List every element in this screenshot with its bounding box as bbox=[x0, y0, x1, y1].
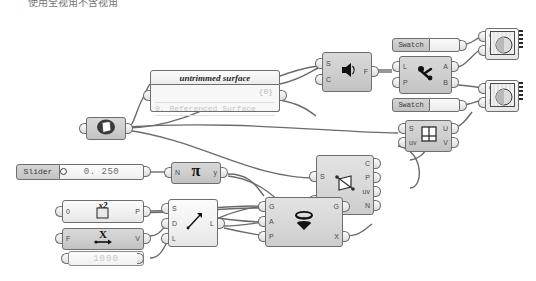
sl-out-C[interactable] bbox=[374, 158, 381, 169]
pi-label-N: N bbox=[175, 169, 180, 177]
svg-text:X: X bbox=[99, 228, 107, 240]
sl-out-P[interactable] bbox=[374, 172, 381, 183]
panel-input-port[interactable] bbox=[143, 90, 150, 101]
ex-in-F[interactable] bbox=[55, 233, 62, 244]
sl-out-N[interactable] bbox=[374, 200, 381, 211]
panel-body: {0} 0. Referenced Surface bbox=[150, 85, 280, 112]
top-note-text: 使用全视角不含视角 bbox=[28, 0, 118, 9]
node-rotate[interactable]: G A P G X bbox=[265, 197, 343, 247]
swatch-bottom-output[interactable] bbox=[460, 100, 467, 111]
sq-in-0[interactable] bbox=[55, 206, 62, 217]
number-input-port[interactable] bbox=[61, 253, 68, 264]
node-dispatch[interactable]: L P A B bbox=[399, 56, 452, 94]
evaluate-out-U[interactable] bbox=[452, 123, 459, 134]
swatch-bottom[interactable]: Swatch bbox=[392, 98, 460, 112]
node-line-sdl[interactable]: S D L L bbox=[168, 199, 218, 247]
evaluate-out-V[interactable] bbox=[452, 137, 459, 148]
evaluate-label-V: V bbox=[443, 139, 448, 147]
swatch-bottom-chip[interactable] bbox=[430, 98, 460, 112]
preview-bottom-in-G[interactable] bbox=[478, 83, 485, 94]
swatch-top-chip[interactable] bbox=[430, 38, 460, 52]
panel-title: untrimmed surface bbox=[150, 70, 280, 85]
node-surface-frame[interactable]: S C F bbox=[322, 52, 372, 92]
port-label-C: C bbox=[326, 76, 331, 84]
uv-grid-icon bbox=[421, 126, 437, 146]
sdl-in-S[interactable] bbox=[161, 203, 168, 214]
node-expression[interactable]: F V X bbox=[62, 228, 144, 250]
rot-label-out-G: G bbox=[334, 203, 339, 211]
number-slider[interactable]: Slider 0. 250 bbox=[16, 164, 144, 180]
node-pi[interactable]: N y π bbox=[171, 162, 221, 184]
evaluate-label-S: S bbox=[409, 125, 414, 133]
number-value[interactable]: 1000 bbox=[68, 251, 144, 266]
ex-out-V[interactable] bbox=[144, 233, 151, 244]
sdl-label-out-L: L bbox=[210, 220, 214, 228]
ex-label-V: V bbox=[135, 235, 140, 243]
surface-param-input[interactable] bbox=[79, 123, 86, 134]
swatch-top-label: Swatch bbox=[392, 38, 430, 52]
preview-bottom-fins bbox=[519, 82, 523, 108]
evaluate-in-S[interactable] bbox=[398, 123, 405, 134]
surface-frame-out-F[interactable] bbox=[372, 66, 379, 77]
sdl-in-D[interactable] bbox=[161, 218, 168, 229]
port-label-S: S bbox=[326, 60, 331, 68]
panel-output-port[interactable] bbox=[280, 90, 287, 101]
slider-output[interactable] bbox=[144, 166, 151, 177]
dispatch-out-B[interactable] bbox=[452, 77, 459, 88]
preview-top-in-G[interactable] bbox=[478, 31, 485, 42]
sdl-out-L[interactable] bbox=[218, 218, 225, 229]
surface-frame-in-C[interactable] bbox=[315, 74, 322, 85]
pi-in-N[interactable] bbox=[164, 167, 171, 178]
sphere-preview-icon bbox=[490, 31, 515, 55]
grasshopper-canvas[interactable]: 使用全视角不含视角 bbox=[0, 0, 536, 281]
sdl-label-S: S bbox=[172, 205, 177, 213]
sdl-label-D: D bbox=[172, 220, 177, 228]
port-label-L: L bbox=[403, 63, 407, 71]
x-arrow-icon: X bbox=[91, 228, 115, 250]
surface-frame-in-S[interactable] bbox=[315, 58, 322, 69]
preview-bottom-in-S[interactable] bbox=[478, 97, 485, 108]
rot-out-X[interactable] bbox=[343, 231, 350, 242]
preview-top-in-S[interactable] bbox=[478, 45, 485, 56]
surface-icon bbox=[96, 118, 116, 139]
rot-label-G: G bbox=[269, 203, 274, 211]
slider-value: 0. 250 bbox=[60, 165, 143, 179]
slider-knob[interactable] bbox=[60, 168, 67, 175]
evaluate-label-U: U bbox=[443, 125, 448, 133]
preview-top-fins bbox=[519, 30, 523, 56]
pi-out-y[interactable] bbox=[221, 167, 228, 178]
rot-in-P[interactable] bbox=[258, 231, 265, 242]
sl-label-N: N bbox=[365, 202, 370, 210]
swatch-top-output[interactable] bbox=[460, 40, 467, 51]
node-square-root[interactable]: 0 P x2 bbox=[62, 200, 144, 223]
dispatch-in-P[interactable] bbox=[392, 77, 399, 88]
swatch-top[interactable]: Swatch bbox=[392, 38, 460, 52]
rotate-icon bbox=[291, 207, 317, 237]
sdl-in-L[interactable] bbox=[161, 233, 168, 244]
node-preview-bottom[interactable]: G S bbox=[485, 80, 519, 112]
port-label-P: P bbox=[403, 79, 408, 87]
panel-row-0: 0. Referenced Surface bbox=[155, 102, 275, 116]
dispatch-out-A[interactable] bbox=[452, 61, 459, 72]
sl-in-S[interactable] bbox=[309, 171, 316, 182]
sl-out-uv[interactable] bbox=[374, 186, 381, 197]
rot-in-A[interactable] bbox=[258, 216, 265, 227]
evaluate-label-uv: uv bbox=[409, 139, 416, 147]
rot-label-out-X: X bbox=[334, 233, 339, 241]
panel-untrimmed-surface[interactable]: untrimmed surface {0} 0. Referenced Surf… bbox=[150, 70, 280, 112]
node-preview-top[interactable]: G S bbox=[485, 28, 519, 60]
x2-icon: x2 bbox=[92, 200, 114, 224]
arrow-line-icon bbox=[185, 211, 205, 235]
node-evaluate-surface[interactable]: S uv U V bbox=[405, 120, 452, 152]
rot-label-P: P bbox=[269, 233, 274, 241]
surface-param-output[interactable] bbox=[126, 123, 133, 134]
panel-count: {0} bbox=[259, 87, 273, 96]
dispatch-in-L[interactable] bbox=[392, 61, 399, 72]
sq-out-P[interactable] bbox=[144, 206, 151, 217]
ex-label-F: F bbox=[66, 235, 70, 243]
sl-label-P: P bbox=[365, 174, 370, 182]
slider-track[interactable]: 0. 250 bbox=[60, 164, 144, 180]
node-surface-param[interactable] bbox=[86, 117, 126, 140]
evaluate-in-uv[interactable] bbox=[398, 137, 405, 148]
rot-in-G[interactable] bbox=[258, 201, 265, 212]
